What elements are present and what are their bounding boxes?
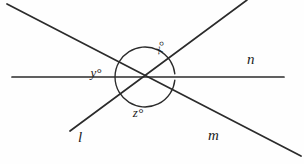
line-label-l: l — [78, 129, 82, 145]
angle-label-z: z° — [132, 105, 143, 120]
line-label-m: m — [208, 127, 219, 143]
line-label-n: n — [247, 51, 255, 67]
geometry-diagram: l m n x° y° z° — [0, 0, 304, 164]
angle-label-y: y° — [89, 65, 102, 80]
geometry-canvas: l m n x° y° z° — [0, 0, 304, 164]
